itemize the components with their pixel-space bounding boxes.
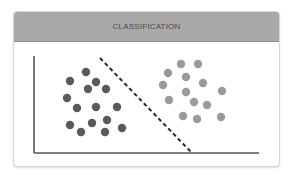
class-a-point xyxy=(73,104,81,112)
class-b-point xyxy=(203,101,211,109)
class-a-points xyxy=(63,68,126,136)
class-b-points xyxy=(159,60,226,123)
class-a-point xyxy=(101,128,109,136)
class-b-point xyxy=(182,88,190,96)
class-b-point xyxy=(159,81,167,89)
class-a-point xyxy=(77,128,85,136)
class-a-point xyxy=(113,103,121,111)
class-a-point xyxy=(92,78,100,86)
classification-diagram xyxy=(0,0,293,179)
class-b-point xyxy=(218,87,226,95)
class-b-point xyxy=(164,69,172,77)
class-a-point xyxy=(63,94,71,102)
class-b-point xyxy=(165,96,173,104)
class-a-point xyxy=(84,85,92,93)
class-b-point xyxy=(182,73,190,81)
class-a-point xyxy=(82,68,90,76)
class-b-point xyxy=(194,60,202,68)
class-a-point xyxy=(92,103,100,111)
class-b-point xyxy=(177,60,185,68)
class-b-point xyxy=(193,115,201,123)
class-b-point xyxy=(217,113,225,121)
class-a-point xyxy=(118,124,126,132)
axes xyxy=(34,56,259,153)
class-b-point xyxy=(179,112,187,120)
class-a-point xyxy=(66,121,74,129)
class-a-point xyxy=(66,77,74,85)
class-a-point xyxy=(103,116,111,124)
class-a-point xyxy=(102,85,110,93)
class-b-point xyxy=(199,79,207,87)
class-a-point xyxy=(88,119,96,127)
class-b-point xyxy=(190,98,198,106)
